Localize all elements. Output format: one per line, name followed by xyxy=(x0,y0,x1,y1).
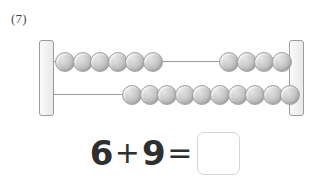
problem-number-label: (7) xyxy=(11,12,27,25)
second-addend: 9 xyxy=(142,136,165,170)
equals-operator: = xyxy=(166,138,193,168)
bead-group-bottom-right xyxy=(122,83,300,107)
answer-input-box[interactable] xyxy=(197,132,240,175)
abacus-row-top xyxy=(0,50,330,74)
abacus-bead[interactable] xyxy=(272,52,292,72)
abacus-bead[interactable] xyxy=(143,52,163,72)
first-addend: 6 xyxy=(90,136,113,170)
abacus-diagram xyxy=(0,36,330,120)
abacus-bead[interactable] xyxy=(280,85,300,105)
abacus-row-bottom xyxy=(0,83,330,107)
plus-operator: + xyxy=(114,138,141,168)
bead-group-top-right xyxy=(219,50,292,74)
worksheet-problem: (7) 6 + 9 = xyxy=(0,0,330,180)
equation: 6 + 9 = xyxy=(0,126,330,180)
bead-group-top-left xyxy=(55,50,163,74)
